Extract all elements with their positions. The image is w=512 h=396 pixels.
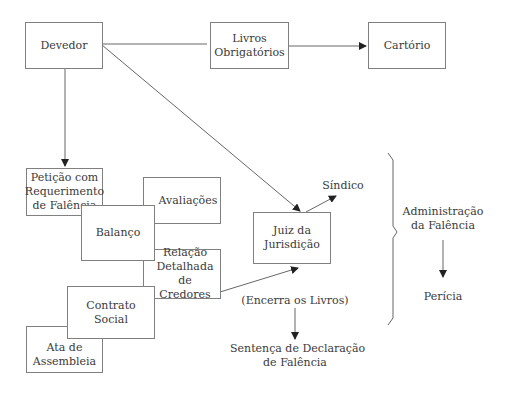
node-contrato-social: Contrato Social — [67, 286, 155, 339]
node-devedor: Devedor — [25, 22, 103, 69]
brace — [388, 153, 397, 325]
node-juiz-label: Juiz da Jurisdição — [256, 224, 328, 252]
label-pericia: Perícia — [408, 290, 478, 304]
node-contrato-label: Contrato Social — [70, 299, 152, 327]
node-balanco: Balanço — [81, 205, 155, 261]
label-administracao-line1: Administração — [398, 205, 488, 219]
node-juiz: Juiz da Jurisdição — [253, 212, 331, 264]
label-sindico: Síndico — [318, 179, 368, 193]
edge-juiz-sindico — [306, 196, 336, 212]
node-livros-label: Livros Obrigatórios — [213, 32, 286, 60]
label-encerra-livros: (Encerra os Livros) — [240, 294, 350, 308]
node-avaliacoes-label: Avaliações — [147, 194, 218, 208]
edge-relacao-juiz — [220, 268, 298, 292]
node-devedor-label: Devedor — [41, 39, 88, 53]
label-sentenca-line2: de Falência — [230, 356, 360, 370]
node-livros-obrigatorios: Livros Obrigatórios — [210, 22, 289, 69]
node-cartorio: Cartório — [368, 22, 446, 69]
label-sentenca-line1: Sentença de Declaração — [230, 342, 360, 356]
node-relacao-label: Relação Detalhada de Credores — [146, 246, 218, 302]
node-balanco-label: Balanço — [96, 226, 141, 240]
label-administracao-line2: da Falência — [398, 219, 488, 233]
node-cartorio-label: Cartório — [384, 39, 431, 53]
